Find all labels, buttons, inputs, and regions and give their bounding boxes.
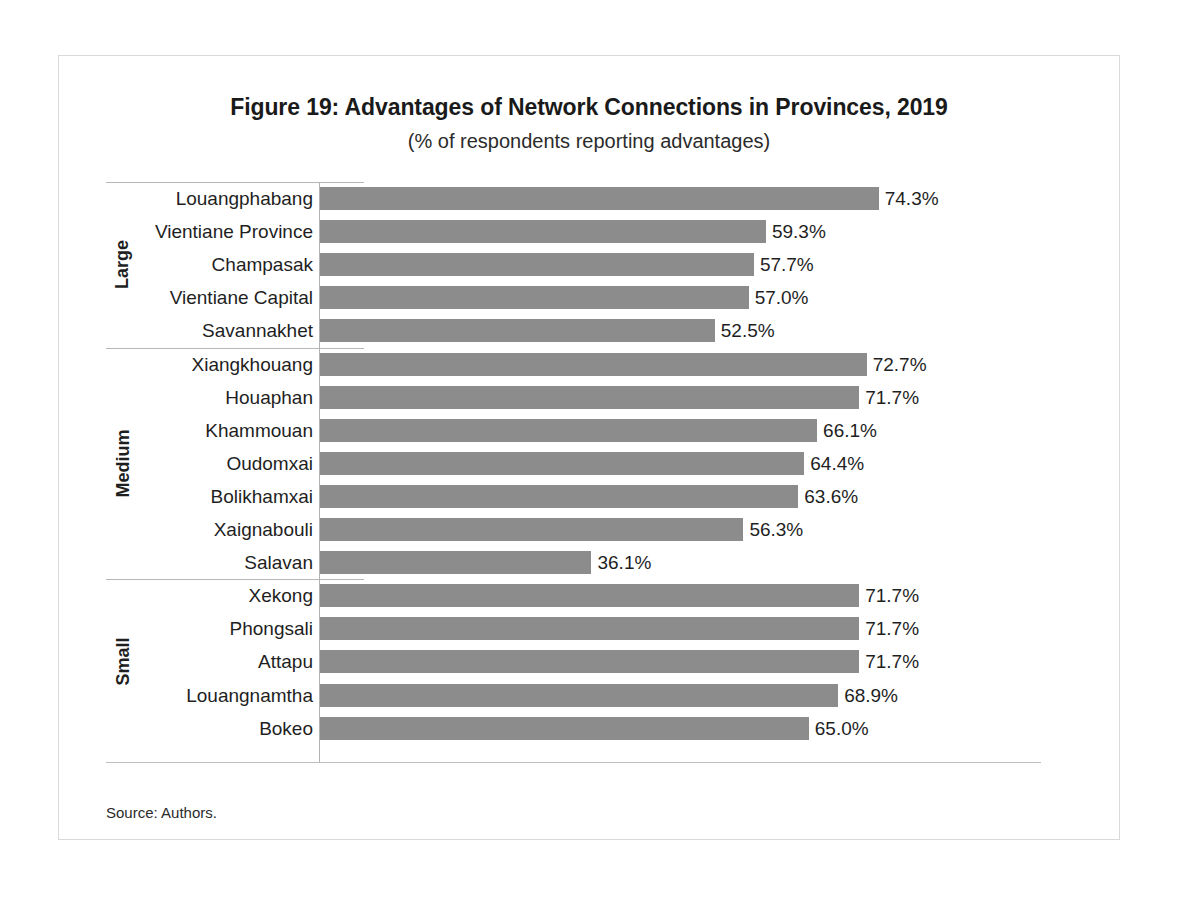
bar-value-label: 71.7%: [865, 381, 919, 414]
bar-row: Louangnamtha68.9%: [106, 679, 1041, 712]
bar: [320, 518, 743, 541]
category-label: Houaphan: [140, 381, 313, 414]
category-label: Oudomxai: [140, 447, 313, 480]
bar-value-label: 56.3%: [749, 513, 803, 546]
bar-row: Khammouan66.1%: [106, 414, 1041, 447]
category-label: Champasak: [140, 248, 313, 281]
bar-value-label: 72.7%: [873, 348, 927, 381]
bar-value-label: 71.7%: [865, 645, 919, 678]
bar: [320, 253, 754, 276]
bar-value-label: 74.3%: [885, 182, 939, 215]
bar: [320, 650, 859, 673]
category-label: Attapu: [140, 645, 313, 678]
bar-row: Xaignabouli56.3%: [106, 513, 1041, 546]
bar: [320, 386, 859, 409]
category-label: Xaignabouli: [140, 513, 313, 546]
bar-value-label: 57.0%: [755, 281, 809, 314]
source-note: Source: Authors.: [106, 804, 217, 821]
bar-row: Xiangkhouang72.7%: [106, 348, 1041, 381]
bar-row: Vientiane Province59.3%: [106, 215, 1041, 248]
category-label: Vientiane Province: [140, 215, 313, 248]
bar-row: Louangphabang74.3%: [106, 182, 1041, 215]
bar: [320, 584, 859, 607]
category-label: Phongsali: [140, 612, 313, 645]
bar-value-label: 71.7%: [865, 612, 919, 645]
category-label: Khammouan: [140, 414, 313, 447]
bar-row: Phongsali71.7%: [106, 612, 1041, 645]
bar: [320, 353, 867, 376]
bar-row: Houaphan71.7%: [106, 381, 1041, 414]
category-label: Bokeo: [140, 712, 313, 745]
bar-row: Oudomxai64.4%: [106, 447, 1041, 480]
bar-row: Champasak57.7%: [106, 248, 1041, 281]
category-label: Louangphabang: [140, 182, 313, 215]
bar-value-label: 68.9%: [844, 679, 898, 712]
bar-value-label: 64.4%: [810, 447, 864, 480]
bar: [320, 617, 859, 640]
bar-value-label: 59.3%: [772, 215, 826, 248]
bar-row: Salavan36.1%: [106, 546, 1041, 579]
figure-title: Figure 19: Advantages of Network Connect…: [59, 94, 1119, 121]
bar-value-label: 71.7%: [865, 579, 919, 612]
bar-row: Savannakhet52.5%: [106, 314, 1041, 347]
bar: [320, 319, 715, 342]
category-label: Louangnamtha: [140, 679, 313, 712]
bar: [320, 187, 879, 210]
bar-value-label: 52.5%: [721, 314, 775, 347]
bar-value-label: 66.1%: [823, 414, 877, 447]
bar: [320, 551, 591, 574]
bar-value-label: 63.6%: [804, 480, 858, 513]
category-label: Vientiane Capital: [140, 281, 313, 314]
chart-baseline: [106, 762, 1041, 763]
category-label: Xekong: [140, 579, 313, 612]
category-label: Salavan: [140, 546, 313, 579]
bar: [320, 684, 838, 707]
chart-plot-area: LargeLouangphabang74.3%Vientiane Provinc…: [106, 182, 1041, 762]
bar-row: Bokeo65.0%: [106, 712, 1041, 745]
bar: [320, 220, 766, 243]
category-label: Bolikhamxai: [140, 480, 313, 513]
category-label: Xiangkhouang: [140, 348, 313, 381]
bar-row: Xekong71.7%: [106, 579, 1041, 612]
bar-value-label: 65.0%: [815, 712, 869, 745]
bar-row: Attapu71.7%: [106, 645, 1041, 678]
bar: [320, 286, 749, 309]
bar-row: Vientiane Capital57.0%: [106, 281, 1041, 314]
bar: [320, 452, 804, 475]
bar: [320, 485, 798, 508]
figure-subtitle: (% of respondents reporting advantages): [59, 130, 1119, 153]
figure-frame: Figure 19: Advantages of Network Connect…: [58, 55, 1120, 840]
category-label: Savannakhet: [140, 314, 313, 347]
bar: [320, 419, 817, 442]
bar-value-label: 57.7%: [760, 248, 814, 281]
bar-value-label: 36.1%: [597, 546, 651, 579]
bar-row: Bolikhamxai63.6%: [106, 480, 1041, 513]
bar: [320, 717, 809, 740]
